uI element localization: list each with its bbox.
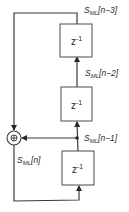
delay-block-middle: z-1	[61, 87, 92, 121]
junction-dot	[75, 136, 79, 140]
delay-block-top: z-1	[60, 24, 92, 57]
signal-label-n3: SML[n−3]	[84, 5, 118, 16]
delay-block-bottom: z-1	[62, 151, 94, 185]
delay-label-exp: -1	[77, 163, 83, 170]
delay-label-exp: -1	[76, 99, 82, 106]
block-diagram: z-1 z-1 z-1 SML[n−3] SML[n−2] SML[n−1] S…	[0, 0, 129, 212]
delay-label-exp: -1	[76, 35, 82, 42]
adder-node	[7, 131, 21, 145]
signal-label-n0: SML[n]	[17, 155, 41, 166]
signal-label-n1: SML[n−1]	[84, 133, 118, 144]
signal-label-n2: SML[n−2]	[85, 68, 119, 79]
